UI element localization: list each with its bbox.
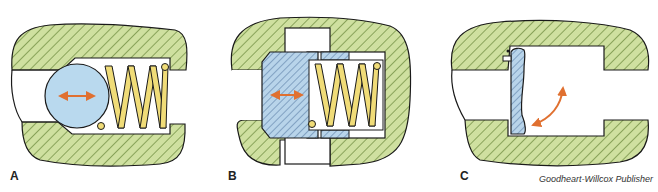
panel-label-c: C xyxy=(460,169,469,183)
panel-label-a: A xyxy=(10,169,19,183)
panel-a: A xyxy=(10,24,187,183)
publisher-credit: Goodheart-Willcox Publisher xyxy=(539,174,654,184)
check-valve-diagram: A B xyxy=(0,0,658,192)
swing-arrow-icon xyxy=(533,88,563,125)
panel-b: B xyxy=(228,17,411,183)
swing-disc xyxy=(511,48,525,134)
valve-body-bottom xyxy=(465,120,648,166)
panel-label-b: B xyxy=(228,169,237,183)
panel-c: C xyxy=(451,20,648,183)
valve-body xyxy=(451,20,648,70)
valve-body-top xyxy=(12,24,187,70)
